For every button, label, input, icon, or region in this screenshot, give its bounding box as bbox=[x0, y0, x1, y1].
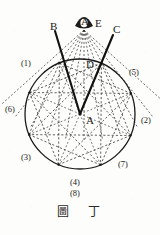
vertex-dot-5 bbox=[100, 164, 102, 166]
apex-ray bbox=[1, 30, 84, 105]
label-A_center: A bbox=[86, 114, 94, 126]
center-point-dot bbox=[79, 113, 82, 116]
caption-glyph-1: 圖 bbox=[57, 205, 69, 219]
vertex-dot-1 bbox=[58, 62, 60, 64]
star-chord bbox=[29, 93, 131, 94]
vertex-dot-3 bbox=[130, 92, 132, 94]
geometric-diagram: BEACDA (1)(5)(6)(2)(3)(7)(4)(8) 圖 丁 bbox=[0, 0, 160, 235]
star-chord bbox=[59, 63, 60, 165]
apex-ray-group bbox=[1, 30, 160, 142]
label-C: C bbox=[113, 23, 120, 35]
label-E: E bbox=[95, 17, 102, 29]
star-chord bbox=[29, 135, 131, 136]
vertex-dot-4 bbox=[130, 134, 132, 136]
star-chord bbox=[29, 93, 100, 165]
vertex-dot-6 bbox=[57, 164, 59, 166]
figure-container: BEACDA (1)(5)(6)(2)(3)(7)(4)(8) 圖 丁 bbox=[0, 0, 160, 235]
label-point-5: (5) bbox=[129, 67, 139, 77]
star-chord bbox=[59, 63, 130, 135]
label-point-2: (2) bbox=[141, 115, 151, 125]
label-point-8: (8) bbox=[70, 188, 80, 198]
apex-ray bbox=[84, 30, 154, 118]
label-A_apex: A bbox=[81, 15, 89, 27]
label-point-4: (4) bbox=[70, 177, 80, 187]
label-point-3: (3) bbox=[21, 152, 31, 162]
vertex-dot-8 bbox=[28, 91, 30, 93]
caption-glyph-2: 丁 bbox=[88, 205, 100, 219]
letter-label-group: BEACDA bbox=[50, 15, 120, 126]
apex-ray bbox=[14, 30, 84, 118]
label-D: D bbox=[86, 58, 94, 70]
vertex-dot-7 bbox=[28, 134, 30, 136]
star-chord bbox=[101, 63, 102, 165]
label-point-6: (6) bbox=[5, 104, 15, 114]
star-chord bbox=[59, 93, 131, 164]
label-point-7: (7) bbox=[118, 159, 128, 169]
label-point-1: (1) bbox=[21, 58, 31, 68]
label-B: B bbox=[50, 20, 57, 32]
